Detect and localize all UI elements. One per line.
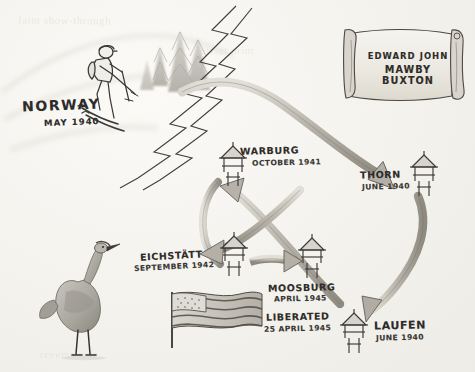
diagram-canvas: faint show-through offset print reverse … [0,0,475,372]
stop-label-warburg: WARBURG [240,145,299,157]
liberation-date: 25 APRIL 1945 [264,324,331,334]
stop-label-thorn: THORN [360,170,401,182]
zigzag-road-icon [120,6,252,190]
stop-date-moosburg: APRIL 1945 [274,294,327,304]
stop-date-laufen: JUNE 1940 [376,333,424,343]
liberation-label: LIBERATED [266,311,330,323]
crane-bird-icon [40,242,120,361]
guard-tower-icon-laufen [340,309,368,353]
stop-label-laufen: LAUFEN [374,319,426,332]
arrow-thorn-laufen [362,196,423,322]
stop-date-warburg: OCTOBER 1941 [252,158,321,168]
american-flag-icon [172,292,262,348]
origin-place-label: NORWAY [22,96,101,115]
guard-tower-icon-thorn [410,151,438,196]
scroll-name-line-2: MAWBY BUXTON [358,65,458,86]
stop-date-thorn: JUNE 1940 [362,182,410,192]
scroll-name-line-1: EDWARD JOHN [362,52,454,61]
